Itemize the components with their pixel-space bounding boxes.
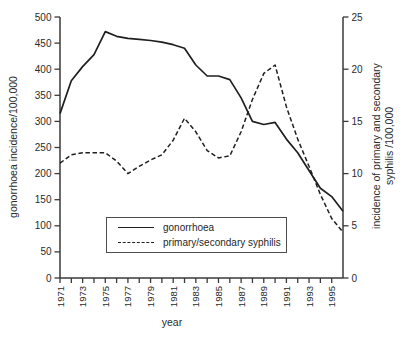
- x-axis-tick-label: 1995: [326, 286, 337, 307]
- left-axis-tick-label: 200: [35, 168, 52, 179]
- x-axis-tick-label: 1993: [304, 286, 315, 307]
- left-axis-tick-label: 50: [40, 246, 52, 257]
- right-axis-tick-label: 5: [352, 220, 358, 231]
- solid-line-swatch-icon: [118, 227, 154, 228]
- legend-label: primary/secondary syphilis: [163, 238, 281, 248]
- legend-item-syphilis: primary/secondary syphilis: [107, 235, 286, 250]
- syphilis-line: [60, 65, 343, 232]
- x-axis-tick-label: 1989: [258, 286, 269, 307]
- x-axis-label: year: [162, 316, 183, 328]
- x-axis-tick-label: 1985: [213, 286, 224, 307]
- x-axis-tick-label: 1983: [190, 286, 201, 307]
- right-axis-tick-label: 15: [352, 116, 364, 127]
- left-axis-tick-label: 300: [35, 116, 52, 127]
- legend: gonorrhoea primary/secondary syphilis: [106, 217, 287, 253]
- right-axis-tick-label: 10: [352, 168, 364, 179]
- right-axis-label-line2: syphilis /100,000: [383, 107, 395, 185]
- legend-label: gonorrhoea: [163, 223, 214, 233]
- left-axis-label: gonorrhoea incidence/100,000: [7, 76, 19, 218]
- legend-item-gonorrhoea: gonorrhoea: [107, 220, 286, 235]
- dashed-line-swatch-icon: [118, 242, 154, 243]
- x-axis-tick-label: 1971: [55, 286, 66, 307]
- syphilis-gonorrhoea-chart: 0501001502002503003504004505000510152025…: [0, 0, 412, 341]
- left-axis-tick-label: 250: [35, 142, 52, 153]
- left-axis-tick-label: 100: [35, 220, 52, 231]
- x-axis-tick-label: 1991: [281, 286, 292, 307]
- left-axis-tick-label: 0: [46, 273, 52, 284]
- right-axis-tick-label: 20: [352, 64, 364, 75]
- gonorrhoea-line: [60, 32, 343, 212]
- x-axis-tick-label: 1987: [236, 286, 247, 307]
- x-axis-tick-label: 1973: [77, 286, 88, 307]
- right-axis-label-line1: incidence of primary and secondary: [370, 62, 382, 229]
- right-axis-tick-label: 0: [352, 273, 358, 284]
- left-axis-tick-label: 450: [35, 38, 52, 49]
- chart-canvas: 0501001502002503003504004505000510152025…: [0, 0, 412, 341]
- left-axis-tick-label: 500: [35, 12, 52, 23]
- left-axis-tick-label: 400: [35, 64, 52, 75]
- left-axis-tick-label: 150: [35, 194, 52, 205]
- x-axis-tick-label: 1979: [145, 286, 156, 307]
- x-axis-tick-label: 1981: [168, 286, 179, 307]
- left-axis-tick-label: 350: [35, 90, 52, 101]
- x-axis-tick-label: 1977: [122, 286, 133, 307]
- x-axis-tick-label: 1975: [100, 286, 111, 307]
- right-axis-tick-label: 25: [352, 12, 364, 23]
